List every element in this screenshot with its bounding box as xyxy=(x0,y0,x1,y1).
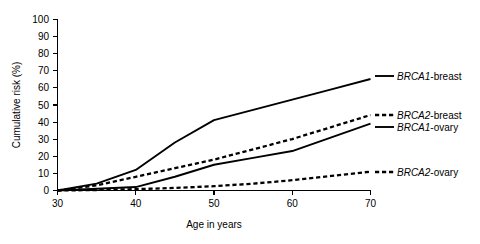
y-tick-label: 30 xyxy=(38,134,50,145)
legend-item-brca2-breast: BRCA2-breast xyxy=(397,110,462,121)
legend-item-brca1-ovary: BRCA1-ovary xyxy=(397,122,458,133)
legend-gene: BRCA2 xyxy=(397,110,431,121)
legend-item-brca2-ovary: BRCA2-ovary xyxy=(397,167,458,178)
y-tick-label: 40 xyxy=(38,117,50,128)
y-tick-label: 80 xyxy=(38,48,50,59)
x-tick-label: 60 xyxy=(287,198,299,209)
y-tick-label: 90 xyxy=(38,31,50,42)
legend-cancer: breast xyxy=(434,71,462,82)
legend-leaders xyxy=(375,76,394,172)
y-tick-label: 10 xyxy=(38,168,50,179)
chart-figure: 100 90 80 70 60 50 40 30 20 10 0 30 40 5… xyxy=(0,0,480,244)
y-axis-title: Cumulative risk (%) xyxy=(11,62,22,149)
x-tick-label: 70 xyxy=(365,198,377,209)
legend-gene: BRCA1 xyxy=(397,122,430,133)
series-group xyxy=(58,79,371,190)
cumulative-risk-line-chart: 100 90 80 70 60 50 40 30 20 10 0 30 40 5… xyxy=(0,0,480,244)
x-tick-label: 50 xyxy=(208,198,220,209)
series-line-brca2-breast xyxy=(58,115,371,190)
y-tick-label: 70 xyxy=(38,65,50,76)
x-axis-ticks xyxy=(58,191,371,196)
y-axis-ticks xyxy=(53,20,58,191)
y-axis-tick-labels: 100 90 80 70 60 50 40 30 20 10 0 xyxy=(32,14,49,196)
legend-item-brca1-breast: BRCA1-breast xyxy=(397,71,462,82)
series-line-brca1-breast xyxy=(58,79,371,190)
y-tick-label: 0 xyxy=(43,185,49,196)
x-tick-label: 30 xyxy=(52,198,64,209)
x-axis-title: Age in years xyxy=(186,219,242,230)
legend-gene: BRCA1 xyxy=(397,71,430,82)
y-tick-label: 100 xyxy=(32,14,49,25)
legend-cancer: ovary xyxy=(434,167,458,178)
legend-cancer: ovary xyxy=(434,122,458,133)
y-tick-label: 50 xyxy=(38,100,50,111)
y-tick-label: 20 xyxy=(38,151,50,162)
legend-gene: BRCA2 xyxy=(397,167,431,178)
legend-cancer: breast xyxy=(434,110,462,121)
x-axis-tick-labels: 30 40 50 60 70 xyxy=(52,198,377,209)
y-tick-label: 60 xyxy=(38,82,50,93)
x-tick-label: 40 xyxy=(130,198,142,209)
legend: BRCA1-breast BRCA2-breast BRCA1-ovary BR… xyxy=(397,71,462,178)
